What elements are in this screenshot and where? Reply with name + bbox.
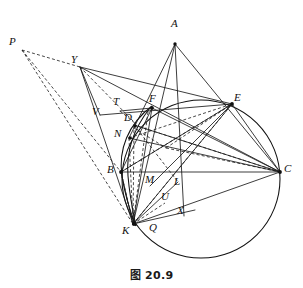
label-point-f: F — [149, 93, 156, 104]
label-point-c: C — [284, 163, 291, 174]
label-point-a: A — [171, 18, 178, 29]
dot-d — [133, 124, 136, 127]
label-point-u: U — [161, 191, 169, 202]
label-point-t: T — [113, 96, 119, 107]
label-point-v: V — [92, 106, 99, 117]
dot-n — [128, 136, 131, 139]
label-point-e: E — [234, 92, 241, 103]
dot-f — [150, 106, 154, 110]
dot-a — [173, 42, 176, 45]
label-point-p: P — [9, 36, 16, 47]
figure-caption: 图 20.9 — [0, 266, 303, 282]
geometry-canvas — [0, 0, 303, 288]
dot-k — [132, 222, 136, 226]
segment-e-q — [150, 104, 232, 186]
segment-a-x — [175, 44, 184, 216]
label-point-m: M — [145, 174, 154, 185]
segment-n-c — [129, 138, 280, 172]
dot-c — [278, 170, 282, 174]
segment-k-l — [133, 182, 178, 224]
label-point-b: B — [107, 164, 114, 175]
label-point-q: Q — [149, 222, 157, 233]
label-point-d: D — [124, 112, 132, 123]
label-point-n: N — [114, 128, 121, 139]
label-point-l: L — [174, 176, 180, 187]
dashed-segment-group — [22, 50, 280, 224]
label-point-y: Y — [71, 54, 77, 65]
segment-e-c — [232, 104, 280, 172]
dot-b — [119, 170, 123, 174]
segment-k-c — [133, 172, 280, 224]
geometry-figure: A P Y T V F E D N B C M L U X K Q 图 20.9 — [0, 0, 303, 288]
dashed-p-b — [22, 50, 121, 172]
solid-segment-group — [80, 44, 280, 224]
label-point-x: X — [177, 205, 184, 216]
segment-f-c — [152, 108, 280, 172]
label-point-k: K — [122, 225, 129, 236]
segment-v-e — [100, 104, 232, 115]
dashed-d-l — [134, 125, 178, 182]
dashed-d-k — [133, 125, 134, 224]
